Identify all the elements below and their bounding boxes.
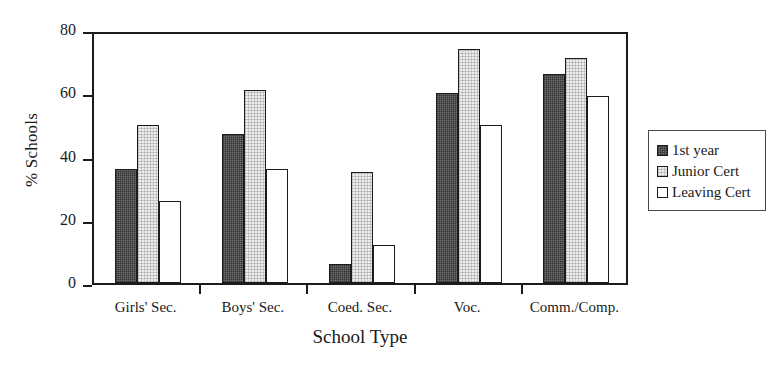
bar-leaving-cert [266,169,288,283]
y-tick-label: 80 [60,21,76,39]
legend-swatch-icon [657,145,668,156]
legend-swatch-icon [657,187,668,198]
legend-item[interactable]: 1st year [657,143,758,158]
bar-group [308,34,415,283]
bar-chart-figure: % Schools 020406080 Girls' Sec.Boys' Sec… [0,0,781,372]
y-tick-label: 0 [68,274,76,292]
bar-leaving-cert [480,125,502,283]
x-tick-label: Voc. [414,299,521,316]
bar-group [94,34,201,283]
legend-item[interactable]: Leaving Cert [657,185,758,200]
x-tick-mark [199,285,201,294]
bar-1st-year [222,134,244,283]
legend-label: Junior Cert [672,164,739,179]
bar-leaving-cert [373,245,395,283]
x-tick-label: Comm./Comp. [521,299,628,316]
x-tick-mark [306,285,308,294]
x-tick-mark [414,285,416,294]
legend-label: 1st year [672,143,719,158]
x-tick-mark [521,285,523,294]
legend-item[interactable]: Junior Cert [657,164,758,179]
y-tick-mark [83,222,92,224]
bar-1st-year [543,74,565,283]
y-tick-mark [83,285,92,287]
plot-area [92,32,628,285]
y-tick-mark [83,95,92,97]
bar-series-container [94,34,626,283]
bar-junior-cert [244,90,266,283]
x-axis-title: School Type [92,326,628,348]
bar-leaving-cert [587,96,609,283]
y-tick-label: 20 [60,211,76,229]
bar-1st-year [115,169,137,283]
bar-group [201,34,308,283]
legend-swatch-icon [657,166,668,177]
bar-group [523,34,630,283]
bar-1st-year [329,264,351,283]
legend-label: Leaving Cert [672,185,751,200]
bar-junior-cert [458,49,480,283]
bar-group [416,34,523,283]
bar-1st-year [436,93,458,283]
y-tick-label: 40 [60,148,76,166]
bar-junior-cert [351,172,373,283]
chart-legend: 1st yearJunior CertLeaving Cert [648,130,766,211]
bar-leaving-cert [159,201,181,283]
y-tick-mark [83,159,92,161]
x-tick-label: Girls' Sec. [92,299,199,316]
x-tick-label: Boys' Sec. [199,299,306,316]
bar-junior-cert [565,58,587,283]
bar-junior-cert [137,125,159,283]
y-tick-mark [83,32,92,34]
x-tick-label: Coed. Sec. [306,299,413,316]
y-axis-ticks: 020406080 [0,32,92,285]
y-tick-label: 60 [60,84,76,102]
